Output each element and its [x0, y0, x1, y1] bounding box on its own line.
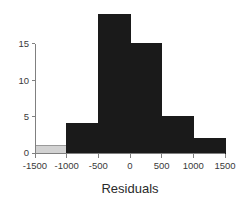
- x-axis-title: Residuals: [101, 181, 159, 196]
- histogram-plot: 051015-1500-1000-500050010001500Residual…: [0, 0, 245, 209]
- histogram-bar: [130, 44, 162, 153]
- y-axis-tick-label: 5: [24, 111, 29, 122]
- histogram-figure: 051015-1500-1000-500050010001500Residual…: [0, 0, 245, 209]
- histogram-bar: [162, 117, 194, 153]
- histogram-bar: [67, 124, 99, 153]
- y-axis-tick-label: 15: [18, 38, 29, 49]
- x-axis-tick-label: -500: [89, 160, 108, 171]
- x-axis-tick-label: 0: [127, 160, 132, 171]
- x-axis-tick-label: 1000: [183, 160, 204, 171]
- histogram-bar: [35, 146, 67, 153]
- x-axis-tick-label: 500: [154, 160, 170, 171]
- x-axis-tick-label: 1500: [214, 160, 235, 171]
- y-axis-tick-label: 10: [18, 75, 29, 86]
- x-axis-tick-label: -1500: [23, 160, 47, 171]
- y-axis-tick-label: 0: [24, 147, 29, 158]
- x-axis-tick-label: -1000: [55, 160, 79, 171]
- histogram-bar: [193, 138, 225, 153]
- histogram-bar: [98, 15, 130, 153]
